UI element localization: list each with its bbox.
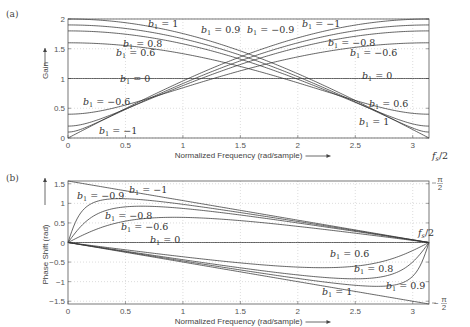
panel-label: (a): [6, 9, 18, 19]
y-tick-label: 0: [61, 134, 66, 143]
x-tick-label: 0: [66, 307, 71, 316]
curve-label: b1 = 1: [359, 116, 389, 129]
gain-plot: 00.511.522.5300.511.52b1 = 1b1 = 0.9b1 =…: [6, 9, 448, 163]
y-tick-label: 1.5: [54, 180, 66, 189]
x-tick-label: 1.5: [235, 307, 247, 316]
curve-label: b1 = −0.6: [83, 96, 130, 109]
y-tick-label: −1.5: [49, 297, 65, 306]
x-tick-label: 1: [181, 307, 186, 316]
curve-label: b1 = −0.9: [77, 190, 124, 203]
curve-label: b1 = 0: [362, 70, 392, 83]
y-tick-label: 2: [61, 15, 66, 24]
arrow-head-icon: [327, 320, 331, 324]
curve-label: b1 = 0.8: [354, 263, 393, 276]
x-tick-label: 2: [296, 141, 301, 150]
y-tick-label: 1: [61, 75, 66, 84]
phase-plot: 00.511.522.531.510.50−0.5−1−1.5b1 = −1b1…: [6, 173, 447, 326]
x-tick-label: 0.5: [120, 307, 132, 316]
x-tick-label: 0: [66, 141, 71, 150]
curve-label: b1 = 0.9: [386, 280, 425, 293]
y-axis-label: Gain: [41, 62, 50, 79]
y-axis-label: Phase Shift (rad): [41, 224, 50, 284]
filter-response-figure: 00.511.522.5300.511.52b1 = 1b1 = 0.9b1 =…: [0, 0, 470, 327]
y-tick-label: 1.5: [54, 45, 66, 54]
arrow-head-icon: [43, 48, 47, 52]
curve-label: b1 = −1: [129, 184, 167, 197]
y-tick-label: 0.5: [54, 104, 66, 113]
x-tick-label: 2.5: [350, 141, 362, 150]
x-axis-label: Normalized Frequency (rad/sample): [175, 317, 303, 326]
x-tick-label: 1.5: [235, 141, 247, 150]
curve-label: b1 = 0.9: [201, 24, 240, 37]
curve-label: b1 = 0.6: [330, 248, 369, 261]
y-tick-label: −0.5: [49, 258, 65, 267]
arrow-head-icon: [43, 178, 47, 182]
pi-label: 2: [438, 183, 443, 192]
curve-label: b1 = 0: [120, 73, 150, 86]
minus-sign: −: [434, 299, 439, 308]
nyquist-label: fs/2: [431, 150, 448, 163]
panel-label: (b): [6, 173, 19, 183]
x-tick-label: 3: [411, 141, 416, 150]
curve-label: b1 = 1: [322, 286, 352, 299]
nyquist-label: fs/2: [417, 227, 434, 240]
y-tick-label: 0.5: [54, 219, 66, 228]
x-tick-label: 3: [411, 307, 416, 316]
y-tick-label: 0: [61, 239, 66, 248]
arrow-head-icon: [327, 154, 331, 158]
x-tick-label: 1: [181, 141, 186, 150]
x-tick-label: 2: [296, 307, 301, 316]
x-tick-label: 2.5: [350, 307, 362, 316]
curve-label: b1 = −1: [99, 125, 137, 138]
curve-label: b1 = −0.9: [247, 24, 294, 37]
x-tick-label: 0.5: [120, 141, 132, 150]
curve-label: b1 = 0.6: [116, 47, 155, 60]
y-tick-label: −1: [56, 278, 66, 287]
curve-label: b1 = 0: [150, 234, 180, 247]
x-axis-label: Normalized Frequency (rad/sample): [175, 151, 303, 160]
curve-label: b1 = −0.6: [350, 47, 397, 60]
y-tick-label: 1: [61, 199, 66, 208]
pi-label: 2: [442, 303, 447, 312]
